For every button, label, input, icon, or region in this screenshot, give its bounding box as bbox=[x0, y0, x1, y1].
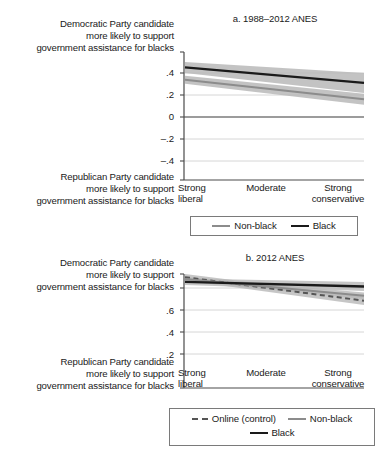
panel-b-top-label-line3: government assistance for blacks bbox=[0, 281, 174, 293]
panel-b-xtick-right-line1: Strong bbox=[296, 367, 380, 379]
panel-a-xtick-right-line1: Strong bbox=[296, 182, 380, 194]
legend-entry-non-black: Non-black bbox=[288, 413, 352, 424]
panel-a-legend: Non-black Black bbox=[190, 216, 358, 236]
legend-entry-non-black: Non-black bbox=[212, 220, 276, 231]
panel-a-plot bbox=[176, 50, 366, 182]
panel-b-xtick-middle: Moderate bbox=[236, 367, 296, 379]
legend-label-non-black: Non-black bbox=[234, 220, 276, 231]
panel-b-xtick-right-line2: conservative bbox=[296, 378, 380, 390]
line-swatch-icon bbox=[212, 225, 230, 227]
panel-a-ytick-1: .2 bbox=[140, 90, 174, 100]
panel-a-ytick-2: 0 bbox=[140, 112, 174, 122]
legend-label-black: Black bbox=[313, 220, 336, 231]
panel-a-ytick-0: .4 bbox=[140, 68, 174, 78]
line-swatch-icon bbox=[288, 418, 306, 420]
panel-a-ytick-3: –.2 bbox=[140, 134, 174, 144]
panel-b-ytick-1: .4 bbox=[140, 328, 174, 338]
panel-b-legend: Online (control) Non-black Black bbox=[169, 408, 375, 446]
panel-b-title: b. 2012 ANES bbox=[188, 252, 362, 263]
panel-a: a. 1988–2012 ANES Democratic Party candi… bbox=[0, 0, 384, 240]
panel-a-xtick-left-line2: liberal bbox=[178, 193, 224, 205]
legend-entry-black: Black bbox=[291, 220, 336, 231]
panel-b-xtick-left-line2: liberal bbox=[178, 378, 224, 390]
panel-a-xtick-right-line2: conservative bbox=[296, 193, 380, 205]
panel-a-xtick-middle: Moderate bbox=[236, 182, 296, 194]
panel-b-legend-row-2: Black bbox=[170, 427, 374, 438]
panel-a-top-label-line3: government assistance for blacks bbox=[0, 42, 174, 54]
panel-b-top-label-line1: Democratic Party candidate bbox=[0, 257, 174, 269]
legend-entry-black: Black bbox=[250, 427, 295, 438]
panel-a-xtick-left-line1: Strong bbox=[178, 182, 224, 194]
panel-a-bottom-label-line2: more likely to support bbox=[0, 183, 174, 195]
panel-b-bottom-label-line2: more likely to support bbox=[0, 368, 174, 380]
panel-a-bottom-label-line3: government assistance for blacks bbox=[0, 195, 174, 207]
panel-a-top-label-line1: Democratic Party candidate bbox=[0, 18, 174, 30]
legend-entry-online-control: Online (control) bbox=[192, 413, 276, 424]
panel-a-bottom-label-line1: Republican Party candidate bbox=[0, 171, 174, 183]
legend-label-black: Black bbox=[272, 427, 295, 438]
panel-a-legend-row: Non-black Black bbox=[191, 220, 357, 231]
panel-a-yticks bbox=[180, 52, 184, 180]
legend-label-non-black: Non-black bbox=[310, 413, 352, 424]
panel-b-bottom-label-line1: Republican Party candidate bbox=[0, 356, 174, 368]
panel-b-legend-row-1: Online (control) Non-black bbox=[170, 413, 374, 424]
legend-label-online-control: Online (control) bbox=[212, 413, 276, 424]
panel-a-title: a. 1988–2012 ANES bbox=[188, 13, 362, 24]
panel-b-top-label-line2: more likely to support bbox=[0, 269, 174, 281]
panel-b-bottom-label-line3: government assistance for blacks bbox=[0, 380, 174, 392]
line-swatch-icon bbox=[291, 225, 309, 227]
panel-b-ytick-0: .6 bbox=[140, 306, 174, 316]
panel-b-xtick-left-line1: Strong bbox=[178, 367, 224, 379]
dashed-line-swatch-icon bbox=[192, 418, 208, 420]
panel-b: b. 2012 ANES Democratic Party candidate … bbox=[0, 240, 384, 463]
panel-a-ytick-4: –.4 bbox=[140, 156, 174, 166]
figure-root: a. 1988–2012 ANES Democratic Party candi… bbox=[0, 0, 384, 463]
line-swatch-icon bbox=[250, 432, 268, 434]
panel-a-top-label-line2: more likely to support bbox=[0, 30, 174, 42]
